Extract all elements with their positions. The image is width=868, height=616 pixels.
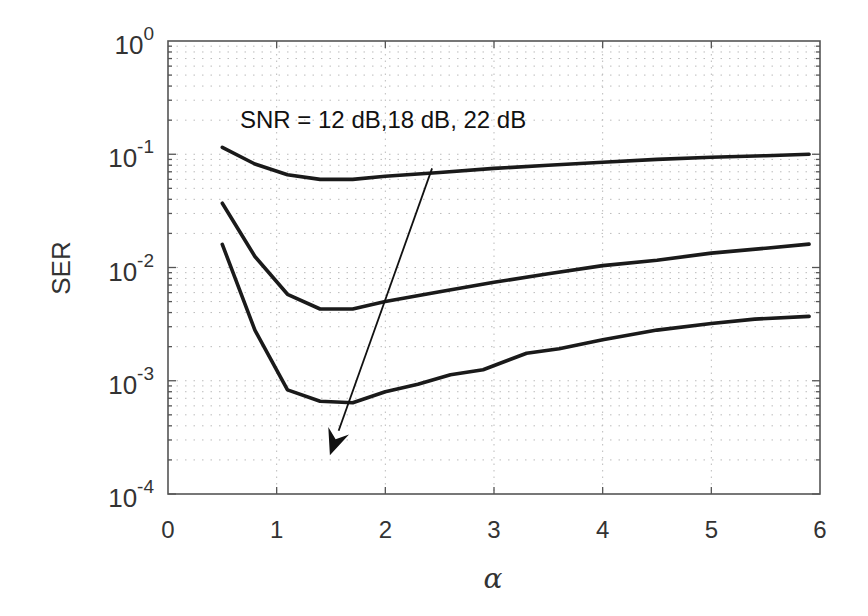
x-tick-labels: 0123456 (161, 516, 826, 543)
x-tick-label: 1 (270, 516, 283, 543)
x-tick-label: 2 (379, 516, 392, 543)
y-tick-label: 10-2 (108, 250, 154, 287)
y-tick-label: 10-4 (108, 476, 154, 513)
y-tick-label: 10-3 (108, 363, 154, 400)
x-tick-label: 6 (813, 516, 826, 543)
ser-vs-alpha-chart: 0123456 10010-110-210-310-4 SNR = 12 dB,… (0, 0, 868, 616)
y-tick-label: 10-1 (108, 136, 154, 173)
x-tick-label: 5 (705, 516, 718, 543)
x-tick-label: 4 (596, 516, 609, 543)
y-tick-labels: 10010-110-210-310-4 (108, 23, 154, 513)
x-axis-label: α (484, 562, 503, 595)
x-tick-label: 0 (161, 516, 174, 543)
y-axis-label: SER (46, 241, 76, 294)
y-tick-label: 100 (115, 23, 155, 60)
snr-annotation-label: SNR = 12 dB,18 dB, 22 dB (240, 106, 526, 133)
x-tick-label: 3 (487, 516, 500, 543)
